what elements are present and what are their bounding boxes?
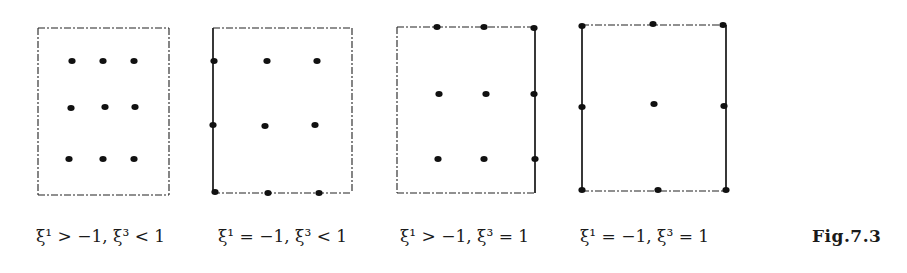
node-dot (433, 24, 440, 30)
node-dot (578, 187, 585, 193)
node-dot (578, 23, 585, 29)
node-dot (530, 91, 537, 97)
node-dot (649, 21, 656, 27)
node-dot (130, 156, 137, 162)
node-dot (315, 190, 322, 196)
node-dot (210, 58, 217, 64)
figure-label: Fig.7.3 (812, 226, 881, 246)
node-dot (480, 156, 487, 162)
node-dot (650, 101, 657, 107)
panel-4 (578, 21, 729, 193)
panel-1 (38, 28, 169, 195)
caption-panel-2: ξ¹ = −1, ξ³ < 1 (218, 226, 347, 246)
node-dot (722, 187, 729, 193)
node-dot (313, 58, 320, 64)
node-dot (435, 91, 442, 97)
panel-3 (397, 24, 539, 193)
node-dot (480, 24, 487, 30)
node-dot (211, 189, 218, 195)
node-dot (101, 104, 108, 110)
panel-2 (209, 28, 352, 196)
node-dot (65, 156, 72, 162)
node-dot (578, 104, 585, 110)
node-dot (482, 91, 489, 97)
node-dot (99, 58, 106, 64)
node-dot (530, 25, 537, 31)
node-dot (99, 156, 106, 162)
node-dot (263, 58, 270, 64)
node-dot (531, 156, 538, 162)
node-dot (209, 122, 216, 128)
caption-panel-1: ξ¹ > −1, ξ³ < 1 (36, 226, 165, 246)
node-dot (720, 103, 727, 109)
node-dot (131, 104, 138, 110)
node-dot (261, 123, 268, 129)
node-dot (264, 190, 271, 196)
node-dot (434, 156, 441, 162)
node-dot (311, 122, 318, 128)
node-dot (68, 58, 75, 64)
node-dot (67, 105, 74, 111)
node-dot (654, 187, 661, 193)
caption-panel-3: ξ¹ > −1, ξ³ = 1 (400, 226, 529, 246)
node-dot (719, 22, 726, 28)
node-dot (130, 58, 137, 64)
caption-panel-4: ξ¹ = −1, ξ³ = 1 (580, 226, 709, 246)
